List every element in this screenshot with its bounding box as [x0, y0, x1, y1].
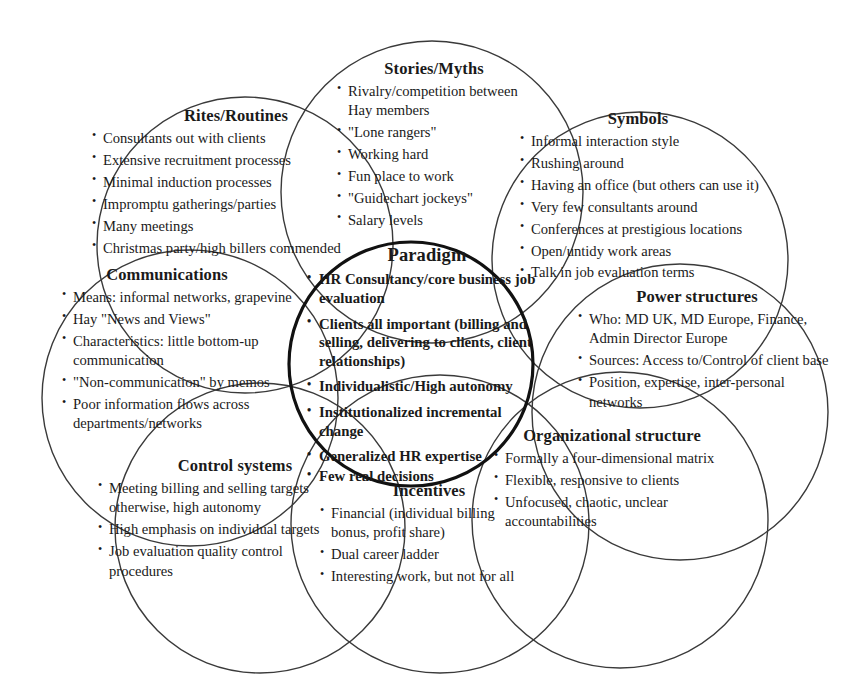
section-list-organizational-structure: Formally a four-dimensional matrix Flexi… — [494, 449, 730, 532]
list-item: Interesting work, but not for all — [320, 567, 522, 586]
section-power-structures: Power structures Who: MD UK, MD Europe, … — [578, 288, 836, 415]
list-item: Impromptu gatherings/parties — [92, 195, 344, 214]
list-item: Unfocused, chaotic, unclear accountabili… — [494, 493, 730, 532]
list-item: Fun place to work — [337, 167, 531, 186]
section-title-rites-routines: Rites/Routines — [92, 107, 344, 126]
section-incentives: Incentives Financial (individual billing… — [320, 482, 522, 589]
cultural-web-diagram: Rites/Routines Consultants out with clie… — [0, 0, 847, 697]
section-title-incentives: Incentives — [320, 482, 522, 501]
list-item: Position, expertise, inter-personal netw… — [578, 373, 836, 412]
section-rites-routines: Rites/Routines Consultants out with clie… — [92, 107, 344, 260]
list-item: Talk in job evaluation terms — [520, 263, 782, 282]
list-item: Characteristics: little bottom-up commun… — [62, 332, 314, 371]
section-symbols: Symbols Informal interaction style Rushi… — [520, 110, 782, 285]
list-item: HR Consultancy/core business job evaluat… — [307, 270, 547, 307]
section-list-power-structures: Who: MD UK, MD Europe, Finance, Admin Di… — [578, 310, 836, 412]
section-title-power-structures: Power structures — [578, 288, 836, 307]
section-title-organizational-structure: Organizational structure — [494, 427, 730, 446]
list-item: Working hard — [337, 145, 531, 164]
list-item: Clients all important (billing and selli… — [307, 315, 547, 371]
list-item: "Non-communication" by memos — [62, 373, 314, 392]
section-title-control-systems: Control systems — [98, 457, 342, 476]
list-item: "Lone rangers" — [337, 123, 531, 142]
list-item: Job evaluation quality control procedure… — [98, 542, 342, 581]
section-control-systems: Control systems Meeting billing and sell… — [98, 457, 342, 584]
section-list-control-systems: Meeting billing and selling targets othe… — [98, 479, 342, 581]
list-item: Very few consultants around — [520, 198, 782, 217]
list-item: Who: MD UK, MD Europe, Finance, Admin Di… — [578, 310, 836, 349]
list-item: Many meetings — [92, 217, 344, 236]
list-item: Formally a four-dimensional matrix — [494, 449, 730, 468]
list-item: Poor information flows across department… — [62, 395, 314, 434]
list-item: Having an office (but others can use it) — [520, 176, 782, 195]
list-item: Hay "News and Views" — [62, 310, 314, 329]
list-item: Financial (individual billing bonus, pro… — [320, 504, 522, 543]
section-list-communications: Means: informal networks, grapevine Hay … — [62, 288, 314, 434]
section-list-rites-routines: Consultants out with clients Extensive r… — [92, 129, 344, 258]
list-item: Meeting billing and selling targets othe… — [98, 479, 342, 518]
list-item: Extensive recruitment processes — [92, 151, 344, 170]
list-item: Means: informal networks, grapevine — [62, 288, 314, 307]
section-title-stories-myths: Stories/Myths — [337, 60, 531, 79]
section-list-stories-myths: Rivalry/competition between Hay members … — [337, 82, 531, 230]
list-item: Sources: Access to/Control of client bas… — [578, 351, 836, 370]
section-organizational-structure: Organizational structure Formally a four… — [494, 427, 730, 534]
section-stories-myths: Stories/Myths Rivalry/competition betwee… — [337, 60, 531, 233]
list-item: Dual career ladder — [320, 545, 522, 564]
section-list-incentives: Financial (individual billing bonus, pro… — [320, 504, 522, 587]
list-item: "Guidechart jockeys" — [337, 189, 531, 208]
list-item: Conferences at prestigious locations — [520, 220, 782, 239]
section-communications: Communications Means: informal networks,… — [62, 266, 314, 436]
list-item: Consultants out with clients — [92, 129, 344, 148]
section-list-symbols: Informal interaction style Rushing aroun… — [520, 132, 782, 283]
section-title-communications: Communications — [62, 266, 314, 285]
section-title-symbols: Symbols — [520, 110, 782, 129]
list-item: Rivalry/competition between Hay members — [337, 82, 531, 121]
list-item: Informal interaction style — [520, 132, 782, 151]
list-item: Minimal induction processes — [92, 173, 344, 192]
list-item: Individualistic/High autonomy — [307, 377, 547, 396]
list-item: Salary levels — [337, 211, 531, 230]
list-item: Open/untidy work areas — [520, 242, 782, 261]
list-item: Flexible, responsive to clients — [494, 471, 730, 490]
list-item: High emphasis on individual targets — [98, 520, 342, 539]
section-title-paradigm: Paradigm — [307, 245, 547, 266]
list-item: Rushing around — [520, 154, 782, 173]
